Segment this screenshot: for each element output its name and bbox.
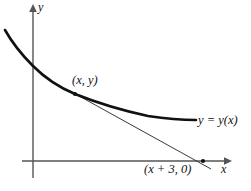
point-marker-x-intercept [201, 159, 205, 163]
diagram-canvas [0, 0, 251, 191]
point-marker-xy [73, 92, 77, 96]
x-intercept-label: (x + 3, 0) [144, 163, 191, 176]
y-axis-arrowhead [29, 4, 37, 12]
x-axis-label: x [221, 163, 226, 175]
math-figure: y x (x, y) y = y(x) (x + 3, 0) [0, 0, 251, 191]
y-axis [29, 4, 37, 178]
secant-line [70, 91, 211, 169]
y-axis-label: y [38, 1, 43, 13]
point-label-x-y: (x, y) [72, 74, 98, 87]
curve-equation-label: y = y(x) [198, 114, 238, 127]
